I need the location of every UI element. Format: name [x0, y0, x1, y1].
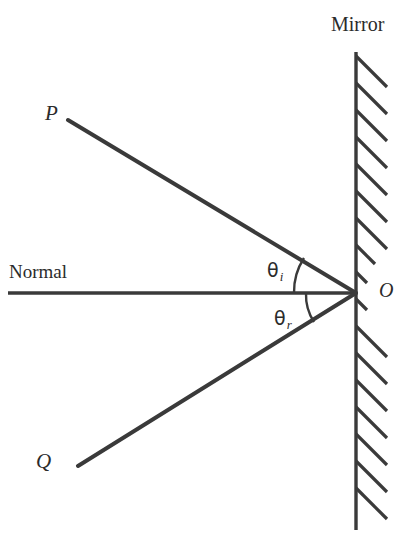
angle-of-incidence-label: θi	[267, 261, 283, 283]
point-o-label: O	[379, 280, 393, 300]
angle-incidence-arc	[294, 258, 304, 293]
angle-of-reflection-label: θr	[274, 309, 292, 331]
theta-subscript-incidence: i	[279, 269, 284, 284]
mirror-label: Mirror	[331, 14, 384, 34]
reflected-ray	[78, 293, 356, 466]
angle-reflection-arc	[306, 293, 314, 322]
incident-ray	[68, 120, 356, 293]
point-p-label: P	[45, 103, 58, 124]
theta-subscript-reflection: r	[286, 317, 292, 332]
normal-label: Normal	[9, 262, 67, 281]
point-q-label: Q	[36, 451, 51, 472]
theta-symbol-reflection: θ	[274, 307, 286, 329]
theta-symbol-incidence: θ	[267, 259, 279, 281]
reflection-diagram: Mirror Normal P Q O θi θr	[0, 0, 420, 553]
